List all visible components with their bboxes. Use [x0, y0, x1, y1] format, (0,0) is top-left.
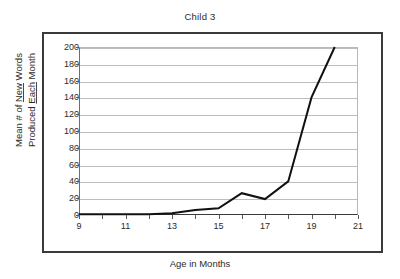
x-tick-mark-18	[288, 215, 289, 219]
y-axis-title-line-2: Produced Each Month	[25, 15, 38, 185]
x-tick-mark-10	[102, 215, 103, 219]
series-path-child-3	[79, 47, 335, 214]
y-tick-label-200: 200	[45, 42, 79, 52]
x-tick-mark-14	[195, 215, 196, 219]
x-axis-title: Age in Months	[0, 258, 400, 269]
y-tick-label-60: 60	[45, 160, 79, 170]
y-tick-label-140: 140	[45, 92, 79, 102]
x-tick-mark-21	[358, 215, 359, 219]
y-tick-label-100: 100	[45, 126, 79, 136]
x-tick-mark-11	[126, 215, 127, 219]
y-tick-label-180: 180	[45, 59, 79, 69]
x-tick-label-21: 21	[343, 221, 373, 231]
y-tick-label-40: 40	[45, 176, 79, 186]
y-axis-title: Mean # of New Words Produced Each Month	[12, 15, 40, 185]
x-tick-label-9: 9	[64, 221, 94, 231]
x-tick-mark-17	[265, 215, 266, 219]
x-axis-ticks: 9111315171921	[79, 215, 359, 239]
y-tick-label-120: 120	[45, 109, 79, 119]
x-tick-mark-19	[312, 215, 313, 219]
x-tick-label-11: 11	[111, 221, 141, 231]
x-tick-label-13: 13	[157, 221, 187, 231]
x-tick-mark-20	[335, 215, 336, 219]
x-tick-label-15: 15	[204, 221, 234, 231]
y-axis-title-line-1: Mean # of New Words	[12, 15, 25, 185]
x-tick-mark-16	[242, 215, 243, 219]
x-tick-label-19: 19	[297, 221, 327, 231]
y-tick-label-0: 0	[45, 210, 79, 220]
x-tick-mark-9	[79, 215, 80, 219]
x-tick-mark-15	[219, 215, 220, 219]
y-tick-label-80: 80	[45, 143, 79, 153]
x-tick-label-17: 17	[250, 221, 280, 231]
chart-title: Child 3	[0, 11, 400, 22]
x-tick-mark-12	[149, 215, 150, 219]
x-tick-mark-13	[172, 215, 173, 219]
y-tick-label-160: 160	[45, 76, 79, 86]
y-axis-ticks: 020406080100120140160180200	[40, 47, 79, 215]
data-series-chart-line	[79, 47, 359, 216]
y-tick-label-20: 20	[45, 193, 79, 203]
